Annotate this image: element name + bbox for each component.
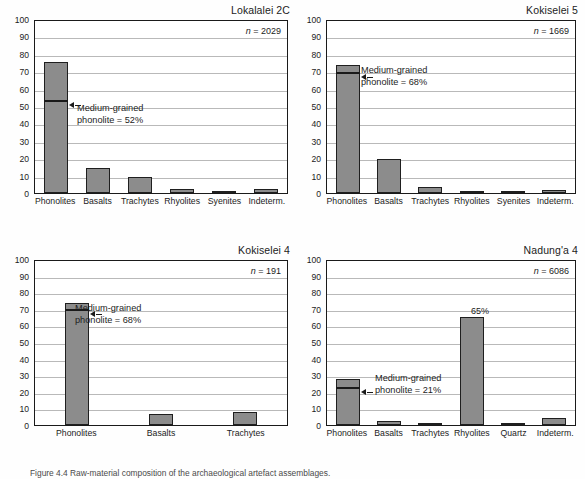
y-axis-ticks: 1009080706050403020100 (6, 260, 32, 426)
x-axis-labels: PhonolitesBasaltsTrachytesRhyolitesSyeni… (34, 196, 288, 212)
subdivision-annotation: Medium-grainedphonolite = 21% (375, 373, 441, 396)
bar-slot (410, 261, 451, 425)
x-tick-label: Indeterm. (534, 196, 576, 212)
bar-rhyolites[interactable] (460, 191, 484, 193)
y-tick-label: 50 (311, 339, 321, 347)
y-tick-label: 70 (311, 68, 321, 76)
x-tick-label: Phonolites (326, 428, 368, 444)
x-axis-labels: PhonolitesBasaltsTrachytes (34, 428, 288, 444)
y-tick-label: 50 (19, 103, 29, 111)
bar-trachytes[interactable] (418, 187, 442, 193)
bar-series: 65% (327, 261, 575, 425)
bar-slot (534, 21, 575, 193)
bar-slot (410, 21, 451, 193)
y-tick-label: 100 (307, 16, 321, 24)
bar-slot (492, 21, 533, 193)
annotation-arrow-line (367, 77, 373, 78)
x-tick-label: Basalts (76, 196, 118, 212)
panel-title: Kokiselei 5 (526, 4, 578, 16)
bar-slot (534, 261, 575, 425)
y-tick-label: 30 (19, 372, 29, 380)
y-axis-ticks: 1009080706050403020100 (298, 20, 324, 194)
bar-syenites[interactable] (212, 191, 236, 193)
y-tick-label: 10 (311, 405, 321, 413)
bar-value-label: 65% (471, 306, 489, 316)
annotation-line-2: phonolite = 52% (77, 115, 143, 127)
x-axis-labels: PhonolitesBasaltsTrachytesRhyolitesSyeni… (326, 196, 576, 212)
y-tick-label: 80 (311, 289, 321, 297)
y-tick-label: 80 (311, 51, 321, 59)
y-tick-label: 30 (311, 138, 321, 146)
bar-slot (451, 21, 492, 193)
annotation-line-2: phonolite = 68% (361, 77, 427, 89)
bar-phonolites[interactable] (336, 379, 360, 425)
x-tick-label: Phonolites (34, 196, 76, 212)
y-tick-label: 50 (19, 339, 29, 347)
y-tick-label: 20 (311, 389, 321, 397)
bar-slot (492, 261, 533, 425)
panel-title: Lokalalei 2C (231, 4, 290, 16)
x-tick-label: Syenites (493, 196, 535, 212)
annotation-line-1: Medium-grained (375, 373, 441, 385)
x-tick-label: Rhyolites (161, 196, 203, 212)
y-tick-label: 40 (19, 356, 29, 364)
x-tick-label: Indeterm. (246, 196, 288, 212)
bar-slot (161, 21, 203, 193)
bar-phonolites[interactable] (336, 65, 360, 193)
figure-caption: Figure 4.4 Raw-material composition of t… (30, 468, 570, 478)
x-tick-label: Trachytes (409, 196, 451, 212)
bar-indeterm[interactable] (254, 189, 278, 193)
bar-basalts[interactable] (377, 159, 401, 193)
bar-slot (368, 21, 409, 193)
panel-title: Kokiselei 4 (238, 244, 290, 256)
bar-indeterm[interactable] (542, 190, 566, 194)
bar-slot (327, 21, 368, 193)
bar-slot (35, 261, 119, 425)
plot-area: n = 191 Medium-grainedphonolite = 68% (34, 260, 288, 426)
y-tick-label: 90 (311, 33, 321, 41)
y-tick-label: 100 (15, 16, 29, 24)
subdivision-line (44, 100, 68, 102)
annotation-arrow-head (90, 311, 95, 317)
bar-indeterm[interactable] (542, 418, 566, 425)
annotation-line-1: Medium-grained (361, 65, 427, 77)
y-tick-label: 0 (24, 190, 29, 198)
bar-rhyolites[interactable] (170, 189, 194, 193)
chart-panel-nadunga-4: Nadung'a 4 1009080706050403020100 n = 60… (298, 244, 580, 466)
x-tick-label: Phonolites (326, 196, 368, 212)
bar-rhyolites[interactable]: 65% (460, 317, 484, 425)
subdivision-annotation: Medium-grainedphonolite = 68% (75, 303, 141, 326)
panel-title: Nadung'a 4 (524, 244, 578, 256)
bar-trachytes[interactable] (128, 177, 152, 193)
bar-slot (368, 261, 409, 425)
plot-area: n = 1669 Medium-grainedphonolite = 68% (326, 20, 576, 194)
y-tick-label: 40 (311, 120, 321, 128)
annotation-arrow-head (361, 74, 366, 80)
bar-trachytes[interactable] (233, 412, 257, 425)
annotation-arrow-head (361, 389, 366, 395)
bar-basalts[interactable] (86, 168, 110, 193)
y-tick-label: 10 (311, 173, 321, 181)
bar-trachytes[interactable] (418, 423, 442, 425)
y-tick-label: 60 (311, 86, 321, 94)
subdivision-line (336, 72, 360, 74)
bar-quartz[interactable] (501, 423, 525, 425)
x-tick-label: Phonolites (34, 428, 119, 444)
bar-basalts[interactable] (149, 414, 173, 425)
bar-syenites[interactable] (501, 191, 525, 193)
y-tick-label: 60 (19, 322, 29, 330)
plot-area: n = 6086 65% Medium-grainedphonolite = 2… (326, 260, 576, 426)
x-tick-label: Trachytes (203, 428, 288, 444)
annotation-line-1: Medium-grained (77, 103, 143, 115)
chart-panel-kokiselei-5: Kokiselei 5 1009080706050403020100 n = 1… (298, 4, 580, 238)
y-axis-ticks: 1009080706050403020100 (6, 20, 32, 194)
y-tick-label: 10 (19, 405, 29, 413)
bar-basalts[interactable] (377, 421, 401, 425)
y-tick-label: 90 (311, 273, 321, 281)
x-tick-label: Quartz (493, 428, 535, 444)
bar-phonolites[interactable] (44, 62, 68, 193)
y-tick-label: 70 (19, 306, 29, 314)
x-tick-label: Trachytes (409, 428, 451, 444)
y-tick-label: 70 (311, 306, 321, 314)
y-tick-label: 20 (19, 389, 29, 397)
